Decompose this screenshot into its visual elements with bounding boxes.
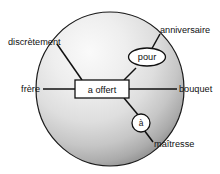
predicate-label: a offert [88, 85, 117, 95]
preposition-label-pour: pour [138, 52, 156, 62]
argument-label-maitresse: maîtresse [154, 139, 194, 149]
dependency-diagram: pour à a offert discrètement anniversair… [0, 0, 220, 174]
argument-label-frere: frère [21, 84, 40, 94]
diagram-canvas: pour à a offert discrètement anniversair… [0, 0, 220, 174]
preposition-label-a: à [139, 118, 144, 128]
argument-label-bouquet: bouquet [179, 84, 213, 94]
argument-label-discretement: discrètement [8, 37, 61, 47]
argument-label-anniversaire: anniversaire [160, 25, 210, 35]
